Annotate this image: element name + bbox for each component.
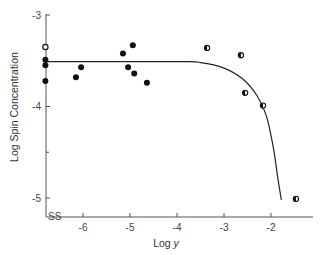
x-tick-label: -5 <box>126 222 135 233</box>
fit-curve <box>45 62 281 200</box>
half-filled-circle-point <box>204 45 209 50</box>
x-tick-label: -3 <box>220 222 229 233</box>
chart-canvas: -3-4-5-6-5-4-3-2SS Log Spin Concentratio… <box>0 0 321 255</box>
half-filled-circle-point <box>238 53 243 58</box>
x-tick-label: -6 <box>79 222 88 233</box>
axes: -3-4-5-6-5-4-3-2SS <box>32 10 313 234</box>
y-axis-title: Log Spin Concentration <box>8 52 20 162</box>
filled-circle-point <box>73 74 79 80</box>
filled-circle-point <box>42 78 48 84</box>
open-circle-point <box>43 44 48 49</box>
x-tick-label: -2 <box>267 222 276 233</box>
filled-circle-point <box>78 64 84 70</box>
filled-circle-point <box>120 50 126 56</box>
filled-circle-point <box>131 71 137 77</box>
x-axis-title: Log y <box>153 237 179 249</box>
y-tick-label: -4 <box>32 101 41 112</box>
filled-circle-point <box>144 80 150 86</box>
data-points <box>42 42 298 201</box>
filled-circle-point <box>42 57 48 63</box>
x-axis-title-main: Log <box>153 237 173 249</box>
filled-circle-point <box>42 62 48 68</box>
half-filled-circle-point <box>293 196 298 201</box>
filled-circle-point <box>130 42 136 48</box>
y-tick-label: -5 <box>32 193 41 204</box>
x-axis-title-var: y <box>173 237 180 249</box>
axis-break-mark: SS <box>48 211 62 222</box>
fit-curve-line <box>45 62 281 200</box>
filled-circle-point <box>125 64 131 70</box>
half-filled-circle-point <box>260 103 265 108</box>
half-filled-circle-point <box>243 90 248 95</box>
y-tick-label: -3 <box>32 10 41 21</box>
x-tick-label: -4 <box>173 222 182 233</box>
